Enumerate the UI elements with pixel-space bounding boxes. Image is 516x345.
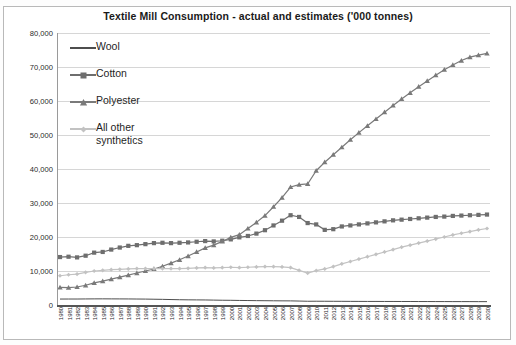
x-axis-tick-label: 2007 xyxy=(288,307,295,320)
series-all-other-synthetics xyxy=(58,226,489,277)
x-axis-tick-label: 1983 xyxy=(83,307,90,320)
legend-item-polyester[interactable]: Polyester xyxy=(70,94,200,110)
x-axis-tick-label: 2010 xyxy=(313,307,320,320)
legend-item-all-other-synthetics[interactable]: All othersynthetics xyxy=(70,121,200,137)
x-axis-tick-label: 2015 xyxy=(356,307,363,320)
x-axis-tick-label: 2014 xyxy=(347,307,354,320)
x-axis-tick-label: 1992 xyxy=(159,307,166,320)
x-axis-tick-label: 2026 xyxy=(450,307,457,320)
legend-key-icon xyxy=(70,42,96,54)
y-axis-tick-label: 40,000 xyxy=(1,165,53,174)
legend-label: Polyester xyxy=(96,94,140,106)
y-axis-line xyxy=(57,33,58,306)
y-axis-tick-labels: 010,00020,00030,00040,00050,00060,00070,… xyxy=(0,33,53,306)
legend-key-icon xyxy=(70,69,96,81)
x-axis-tick-label: 1986 xyxy=(108,307,115,320)
y-axis-tick-label: 0 xyxy=(1,301,53,310)
legend-label: Wool xyxy=(96,40,120,52)
x-axis-tick-label: 2020 xyxy=(399,307,406,320)
x-axis-tick-label: 1985 xyxy=(100,307,107,320)
legend-key-icon xyxy=(70,96,96,108)
y-axis-tick-label: 60,000 xyxy=(1,97,53,106)
x-axis-tick-label: 2024 xyxy=(433,307,440,320)
x-axis-tick-label: 2009 xyxy=(305,307,312,320)
x-axis-tick-label: 2002 xyxy=(245,307,252,320)
series-wool xyxy=(60,299,487,302)
x-axis-tick-label: 2030 xyxy=(484,307,491,320)
x-axis-tick-label: 2018 xyxy=(382,307,389,320)
x-axis-tick-label: 1999 xyxy=(219,307,226,320)
y-axis-tick-label: 70,000 xyxy=(1,63,53,72)
legend-label: Cotton xyxy=(96,67,127,79)
chart-container: Textile Mill Consumption - actual and es… xyxy=(0,0,516,345)
x-axis-tick-label: 1994 xyxy=(177,307,184,320)
x-axis-tick-label: 1993 xyxy=(168,307,175,320)
x-axis-tick-label: 1997 xyxy=(202,307,209,320)
x-axis-tick-label: 2016 xyxy=(364,307,371,320)
y-axis-tick-label: 50,000 xyxy=(1,131,53,140)
x-axis-tick-label: 2021 xyxy=(407,307,414,320)
chart-legend: WoolCottonPolyesterAll othersynthetics xyxy=(70,40,200,148)
x-axis-tick-label: 2005 xyxy=(271,307,278,320)
y-axis-tick-label: 30,000 xyxy=(1,199,53,208)
x-axis-tick-label: 1980 xyxy=(57,307,64,320)
x-axis-tick-label: 2011 xyxy=(322,307,329,320)
x-axis-tick-label: 2004 xyxy=(262,307,269,320)
x-axis-tick-label: 2019 xyxy=(390,307,397,320)
x-axis-tick-label: 2023 xyxy=(424,307,431,320)
x-axis-tick-label: 1989 xyxy=(134,307,141,320)
x-axis-tick-label: 2008 xyxy=(296,307,303,320)
x-axis-tick-label: 1984 xyxy=(91,307,98,320)
legend-item-cotton[interactable]: Cotton xyxy=(70,67,200,83)
x-axis-tick-label: 2001 xyxy=(236,307,243,320)
legend-item-wool[interactable]: Wool xyxy=(70,40,200,56)
x-axis-tick-label: 2006 xyxy=(279,307,286,320)
x-axis-tick-label: 2003 xyxy=(253,307,260,320)
x-axis-tick-label: 1990 xyxy=(142,307,149,320)
x-axis-tick-label: 1987 xyxy=(117,307,124,320)
series-cotton xyxy=(58,212,489,259)
x-axis-tick-label: 2017 xyxy=(373,307,380,320)
y-axis-tick-label: 10,000 xyxy=(1,267,53,276)
x-axis-tick-label: 2022 xyxy=(416,307,423,320)
x-axis-tick-label: 1982 xyxy=(74,307,81,320)
legend-key-icon xyxy=(70,123,96,135)
legend-label: All othersynthetics xyxy=(96,121,143,147)
x-axis-tick-label: 2025 xyxy=(441,307,448,320)
x-axis-tick-labels: 1980198119821983198419851986198719881989… xyxy=(57,307,491,343)
x-axis-tick-label: 1988 xyxy=(125,307,132,320)
x-axis-tick-label: 1981 xyxy=(66,307,73,320)
y-axis-tick-label: 80,000 xyxy=(1,29,53,38)
x-axis-tick-label: 2027 xyxy=(458,307,465,320)
x-axis-tick-label: 1996 xyxy=(194,307,201,320)
y-axis-tick-label: 20,000 xyxy=(1,233,53,242)
x-axis-tick-label: 1998 xyxy=(211,307,218,320)
x-axis-tick-label: 1995 xyxy=(185,307,192,320)
x-axis-tick-label: 2000 xyxy=(228,307,235,320)
x-axis-tick-label: 2028 xyxy=(467,307,474,320)
x-axis-tick-label: 2013 xyxy=(339,307,346,320)
x-axis-tick-label: 1991 xyxy=(151,307,158,320)
chart-title: Textile Mill Consumption - actual and es… xyxy=(0,10,516,22)
x-axis-tick-label: 2012 xyxy=(330,307,337,320)
x-axis-tick-label: 2029 xyxy=(475,307,482,320)
